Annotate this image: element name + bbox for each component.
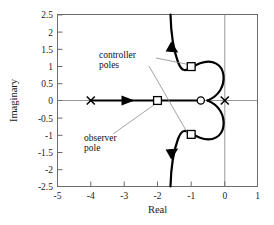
rootlocus-chart: 2.5 2 1.5 1 0.5 0 -0.5 -1 -1.5 -2 -2.5 -… bbox=[0, 0, 274, 225]
x-tick-label: 1 bbox=[255, 191, 260, 201]
leader-observer-pole bbox=[113, 105, 155, 135]
y-tick-label: -0.5 bbox=[38, 114, 53, 124]
annotation-observer-pole-line2: pole bbox=[84, 143, 100, 153]
x-tick-label: 0 bbox=[222, 191, 227, 201]
y-tick-label: 1 bbox=[48, 62, 53, 72]
arrow-down-icon bbox=[166, 149, 179, 160]
x-tick-labels: -5 -4 -3 -2 -1 0 1 bbox=[54, 191, 261, 201]
y-tick-label: 2.5 bbox=[41, 10, 53, 20]
x-tick-label: -4 bbox=[87, 191, 95, 201]
x-tick-label: -2 bbox=[154, 191, 162, 201]
y-axis-title: Imaginary bbox=[8, 78, 19, 122]
annotation-observer-pole-line1: observer bbox=[84, 133, 118, 143]
annotation-controller-poles-line2: poles bbox=[99, 60, 119, 70]
y-tick-labels: 2.5 2 1.5 1 0.5 0 -0.5 -1 -1.5 -2 -2.5 bbox=[38, 10, 53, 192]
annotation-controller-poles-line1: controller bbox=[99, 50, 137, 60]
marker-zero-circle bbox=[197, 97, 204, 104]
arrow-up-icon bbox=[166, 42, 179, 53]
x-tick-label: -3 bbox=[120, 191, 128, 201]
annotation-controller-poles: controller poles bbox=[99, 50, 137, 70]
y-tick-label: -2.5 bbox=[38, 182, 53, 192]
x-axis-title: Real bbox=[148, 204, 167, 215]
locus-lower-branch bbox=[171, 101, 224, 187]
y-tick-label: 1.5 bbox=[41, 45, 53, 55]
marker-controller-pole-square-upper bbox=[187, 63, 195, 71]
marker-controller-pole-square-lower bbox=[187, 131, 195, 139]
x-axis-ticks bbox=[58, 182, 258, 187]
annotation-observer-pole: observer pole bbox=[84, 133, 118, 153]
y-tick-label: 2 bbox=[48, 28, 53, 38]
y-tick-label: -1.5 bbox=[38, 148, 53, 158]
y-tick-label: 0.5 bbox=[41, 79, 53, 89]
root-plot-figure: 2.5 2 1.5 1 0.5 0 -0.5 -1 -1.5 -2 -2.5 -… bbox=[0, 0, 274, 225]
x-tick-label: -5 bbox=[54, 191, 62, 201]
y-tick-label: -2 bbox=[45, 165, 53, 175]
leader-controller-poles-upper bbox=[156, 58, 187, 64]
y-axis-ticks bbox=[58, 15, 63, 187]
y-tick-label: -1 bbox=[45, 131, 53, 141]
x-tick-label: -1 bbox=[187, 191, 195, 201]
marker-observer-pole-square bbox=[154, 97, 162, 105]
arrow-right-icon bbox=[122, 96, 135, 106]
locus-upper-branch bbox=[171, 15, 224, 101]
y-tick-label: 0 bbox=[48, 96, 53, 106]
